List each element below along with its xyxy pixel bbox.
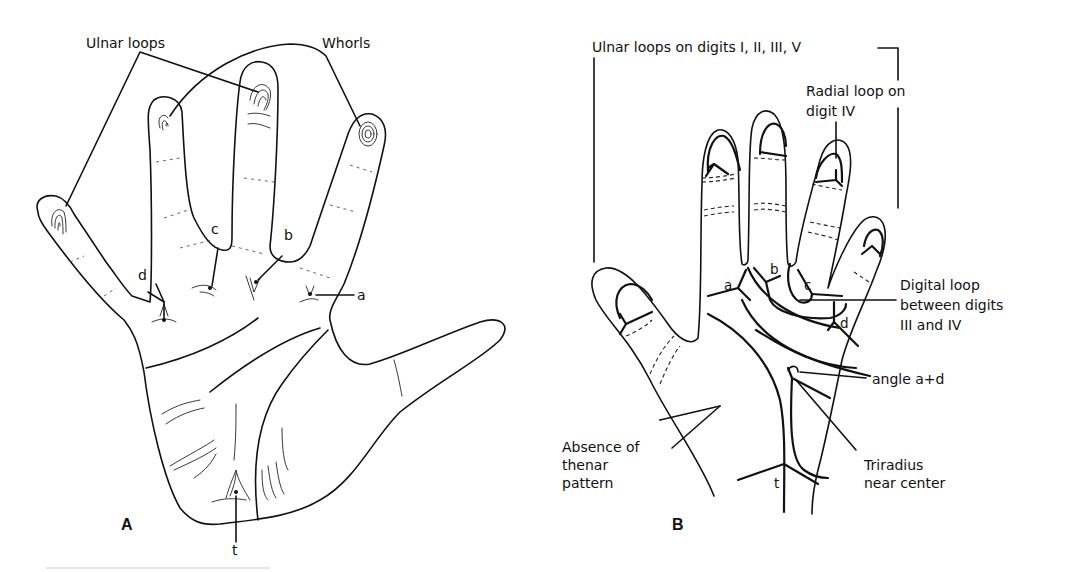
triradius-t-a (212, 470, 250, 542)
dermatoglyphics-figure: Ulnar loops Whorls d c b a t A (0, 0, 1080, 572)
label-triradius-a: a (357, 287, 366, 303)
label-triradius-2: near center (864, 475, 946, 491)
ulnar-loop-pattern-digit-v (52, 210, 66, 234)
label-thenar-1: Absence of (562, 439, 641, 455)
ulnar-loop-digit-i-b (616, 284, 680, 384)
triradius-b-a (246, 256, 282, 300)
label-triradius-d: d (138, 267, 147, 283)
label-b-triradius-t: t (774, 475, 779, 491)
whorl-pattern-digit-ii (359, 122, 377, 146)
label-triradius-t: t (232, 542, 238, 558)
label-triradius-b: b (284, 227, 293, 243)
label-b-triradius-d: d (840, 315, 849, 331)
ulnar-loop-digit-v-b (702, 136, 740, 216)
triradius-a-a (300, 286, 354, 302)
leader-ulnar-loops (66, 52, 258, 206)
label-digital-loop-2: between digits (900, 297, 1003, 313)
label-triradius-1: Triradius (863, 457, 923, 473)
triradius-c-a (192, 248, 218, 296)
label-ulnar-loops: Ulnar loops (86, 35, 165, 51)
label-radial-loop-2: digit IV (806, 103, 856, 119)
label-thenar-3: pattern (562, 475, 613, 491)
label-digital-loop-3: III and IV (900, 317, 962, 333)
label-b-triradius-b: b (770, 261, 779, 277)
triradius-d-a (148, 284, 176, 322)
label-angle-atd: angle a+d (872, 371, 945, 387)
panel-b: Ulnar loops on digits I, II, III, V Radi… (562, 39, 1003, 533)
hand-a-outline (37, 62, 505, 525)
panel-label-b: B (672, 516, 684, 533)
panel-a: Ulnar loops Whorls d c b a t A (37, 35, 505, 558)
ulnar-loop-digit-ii-b (854, 230, 883, 284)
ulnar-loop-pattern-digit-iv (159, 115, 168, 130)
label-b-triradius-c: c (804, 277, 811, 293)
label-whorls: Whorls (322, 35, 370, 51)
label-radial-loop-1: Radial loop on (806, 83, 906, 99)
label-thenar-2: thenar (562, 457, 608, 473)
ulnar-loop-pattern-digit-iii (248, 85, 271, 128)
label-b-triradius-a: a (724, 277, 732, 293)
label-digital-loop-1: Digital loop (900, 277, 980, 293)
ulnar-loop-digit-iv-b (754, 124, 786, 212)
label-triradius-c: c (211, 221, 219, 237)
label-ulnar-loops-digits: Ulnar loops on digits I, II, III, V (592, 39, 802, 55)
panel-label-a: A (121, 516, 133, 533)
